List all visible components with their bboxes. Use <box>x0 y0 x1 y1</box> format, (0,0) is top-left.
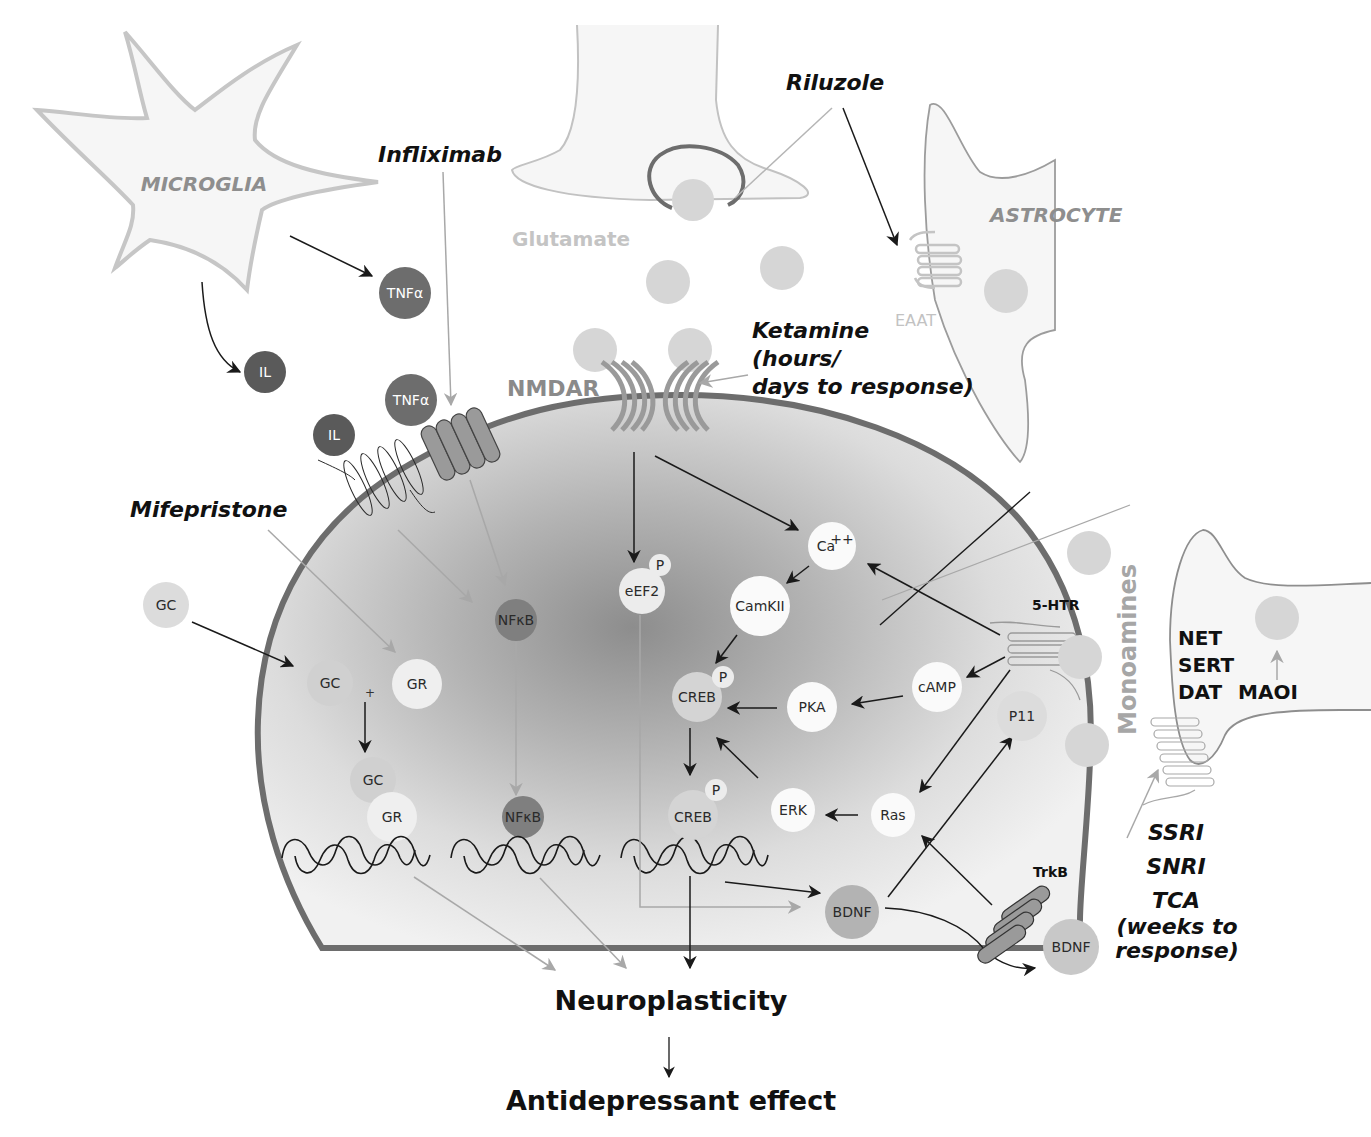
svg-text:TNFα: TNFα <box>386 285 423 301</box>
riluzole-arrow-eaat <box>843 108 897 245</box>
eaat-label: EAAT <box>895 311 936 330</box>
bdnf-molecule-inside: BDNF <box>825 885 879 939</box>
glutamate-molecule <box>984 269 1028 313</box>
diagram-canvas: MICROGLIA Glutamate Riluzole ASTROCYTE E… <box>0 0 1371 1137</box>
microglia-outline <box>37 32 378 290</box>
microglia-label: MICROGLIA <box>141 172 268 196</box>
infliximab-label: Infliximab <box>378 142 502 167</box>
svg-text:BDNF: BDNF <box>833 904 872 920</box>
svg-text:P: P <box>712 782 720 798</box>
glutamate-molecule <box>760 246 804 290</box>
erk-molecule: ERK <box>771 788 815 832</box>
antidepressant-effect-label: Antidepressant effect <box>506 1085 836 1116</box>
svg-text:IL: IL <box>259 364 271 380</box>
net-label: NET <box>1178 626 1222 650</box>
postsynaptic-neuron <box>258 395 1091 948</box>
gc-molecule: GC <box>307 660 353 706</box>
svg-text:Ras: Ras <box>880 807 905 823</box>
svg-text:P11: P11 <box>1009 708 1035 724</box>
camkii-molecule: CamKII <box>730 576 790 636</box>
svg-text:IL: IL <box>328 427 340 443</box>
astrocyte-cell: ASTROCYTE EAAT <box>895 104 1123 462</box>
pka-molecule: PKA <box>787 682 837 732</box>
calcium-ion: Ca ++ <box>808 522 856 570</box>
riluzole-label: Riluzole <box>786 70 884 95</box>
svg-text:(hours/: (hours/ <box>752 346 842 371</box>
microglia-to-il-arrow <box>202 282 240 372</box>
svg-text:BDNF: BDNF <box>1052 939 1091 955</box>
svg-text:eEF2: eEF2 <box>625 583 659 599</box>
il-molecule: IL <box>313 414 355 456</box>
svg-text:P: P <box>656 557 664 573</box>
svg-text:GC: GC <box>363 772 384 788</box>
sert-label: SERT <box>1178 653 1235 677</box>
svg-text:(weeks to: (weeks to <box>1116 914 1237 939</box>
svg-text:GC: GC <box>320 675 341 691</box>
presynaptic-terminal <box>512 25 808 221</box>
svg-text:SNRI: SNRI <box>1146 854 1205 879</box>
monoamine-molecule <box>1065 723 1109 767</box>
svg-text:++: ++ <box>830 531 853 547</box>
tnfa-molecule: TNFα <box>385 374 437 426</box>
ras-molecule: Ras <box>871 793 915 837</box>
monoaminergic-drugs-label: SSRI SNRI TCA (weeks to response) <box>1115 820 1238 963</box>
monoamine-molecule <box>1058 635 1102 679</box>
svg-text:response): response) <box>1115 938 1238 963</box>
5htr-label: 5-HTR <box>1032 597 1080 613</box>
p11-molecule: P11 <box>997 691 1047 741</box>
glutamate-molecule <box>573 328 617 372</box>
microglia-cell: MICROGLIA <box>37 32 378 290</box>
camp-molecule: cAMP <box>912 662 962 712</box>
svg-text:NFκB: NFκB <box>505 809 541 825</box>
ketamine-arrow <box>700 375 748 383</box>
maoi-label: MAOI <box>1238 680 1298 704</box>
svg-text:GR: GR <box>382 809 403 825</box>
svg-text:PKA: PKA <box>799 699 826 715</box>
il-molecule: IL <box>244 351 286 393</box>
monoamine-terminal: NET SERT DAT MAOI <box>1143 530 1371 805</box>
svg-text:SSRI: SSRI <box>1148 820 1204 845</box>
monoamine-molecule <box>1067 531 1111 575</box>
svg-text:CREB: CREB <box>674 809 712 825</box>
svg-text:NFκB: NFκB <box>498 612 534 628</box>
ketamine-label: Ketamine (hours/ days to response) <box>752 318 974 399</box>
bdnf-molecule-outside: BDNF <box>1043 919 1099 975</box>
svg-text:TCA: TCA <box>1152 888 1200 913</box>
glutamate-molecule <box>646 260 690 304</box>
astrocyte-label: ASTROCYTE <box>988 203 1123 227</box>
nfkb-molecule: NFκB <box>495 599 537 641</box>
monoamine-molecule <box>1255 596 1299 640</box>
svg-text:CREB: CREB <box>678 689 716 705</box>
monoamines-label: Monoamines <box>1114 564 1142 735</box>
gr-molecule: GR <box>392 659 442 709</box>
microglia-to-tnfa-arrow <box>290 236 372 276</box>
svg-text:GC: GC <box>156 597 177 613</box>
svg-text:Ketamine: Ketamine <box>752 318 869 343</box>
svg-text:ERK: ERK <box>779 802 808 818</box>
nmdar-label: NMDAR <box>507 376 600 401</box>
gc-molecule-outside: GC <box>143 582 189 628</box>
mifepristone-label: Mifepristone <box>130 497 287 522</box>
svg-text:GR: GR <box>407 676 428 692</box>
svg-text:TNFα: TNFα <box>392 392 429 408</box>
svg-text:CamKII: CamKII <box>735 598 784 614</box>
nfkb-molecule: NFκB <box>502 796 544 838</box>
glutamate-molecule <box>672 179 714 221</box>
svg-text:cAMP: cAMP <box>918 679 956 695</box>
plus-sign: + <box>365 686 375 700</box>
svg-text:P: P <box>719 669 727 685</box>
dat-label: DAT <box>1178 680 1223 704</box>
trkb-label: TrkB <box>1033 864 1068 880</box>
neuroplasticity-label: Neuroplasticity <box>555 985 788 1016</box>
infliximab-arrow <box>443 172 451 405</box>
svg-text:days to response): days to response) <box>752 374 974 399</box>
glutamate-label: Glutamate <box>512 227 630 251</box>
tnfa-molecule: TNFα <box>379 267 431 319</box>
